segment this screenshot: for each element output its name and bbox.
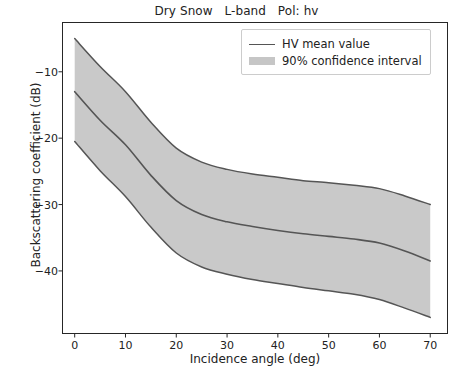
legend-label-confidence: 90% confidence interval <box>282 54 422 68</box>
confidence-band <box>75 39 431 318</box>
y-tick-labels: −10−20−30−40 <box>14 22 58 334</box>
legend-item-confidence[interactable]: 90% confidence interval <box>249 52 422 69</box>
x-tick-label: 60 <box>359 339 399 352</box>
y-tick-label: −30 <box>20 198 58 211</box>
x-tick-label: 0 <box>55 339 95 352</box>
x-tick-label: 70 <box>410 339 450 352</box>
y-tick-label: −10 <box>20 65 58 78</box>
legend-line-swatch-icon <box>249 39 275 49</box>
y-tick-label: −40 <box>20 264 58 277</box>
figure: Dry Snow L-band Pol: hv Backscattering c… <box>0 0 473 374</box>
x-tick-label: 20 <box>156 339 196 352</box>
x-axis-label: Incidence angle (deg) <box>62 352 448 366</box>
x-tick-label: 50 <box>309 339 349 352</box>
y-tick-label: −20 <box>20 132 58 145</box>
legend-patch-swatch-icon <box>249 57 275 65</box>
confidence-band-fill <box>75 39 431 318</box>
legend: HV mean value 90% confidence interval <box>241 29 431 75</box>
x-tick-label: 30 <box>207 339 247 352</box>
chart-title: Dry Snow L-band Pol: hv <box>0 4 473 18</box>
x-tick-label: 10 <box>105 339 145 352</box>
legend-label-mean: HV mean value <box>282 37 370 51</box>
x-tick-label: 40 <box>258 339 298 352</box>
legend-item-mean[interactable]: HV mean value <box>249 35 422 52</box>
